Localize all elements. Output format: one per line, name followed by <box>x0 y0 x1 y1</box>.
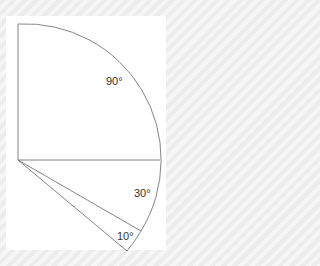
angle-fan-diagram: 90° 30° 10° <box>0 0 172 266</box>
ray-40deg <box>18 160 127 251</box>
label-30: 30° <box>134 187 151 199</box>
outer-arc <box>18 24 161 231</box>
label-90: 90° <box>106 75 123 87</box>
label-10: 10° <box>117 230 134 242</box>
ray-30deg <box>18 160 141 231</box>
